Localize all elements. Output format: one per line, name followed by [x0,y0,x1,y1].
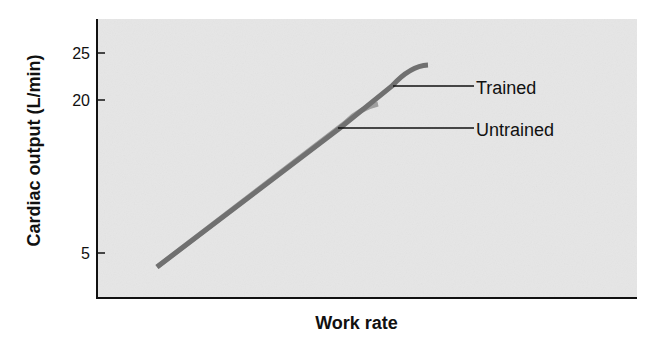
cardiac-output-chart: 25 20 5 Trained Untrained Cardiac output… [0,0,646,356]
tick-label-5: 5 [81,245,90,262]
x-axis-label: Work rate [0,313,646,334]
untrained-label: Untrained [476,120,554,140]
tick-label-25: 25 [72,45,90,62]
trained-label: Trained [476,78,536,98]
y-axis-label: Cardiac output (L/min) [14,0,54,300]
chart-svg: 25 20 5 Trained Untrained [0,0,646,356]
tick-label-20: 20 [72,92,90,109]
y-axis-label-text: Cardiac output (L/min) [24,54,45,246]
